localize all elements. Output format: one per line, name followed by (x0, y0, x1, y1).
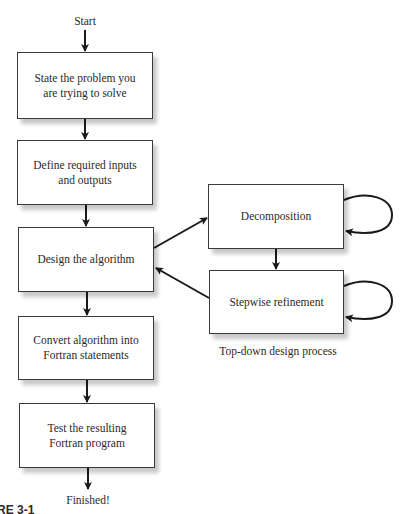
sub-stepwise-refinement-label: Stepwise refinement (229, 295, 323, 310)
step-test-program-line1: Test the resulting (47, 421, 126, 436)
figure-label: RE 3-1 (0, 503, 34, 514)
step-convert-fortran-line1: Convert algorithm into (33, 333, 138, 348)
step-state-problem-line2: are trying to solve (34, 86, 135, 101)
start-label: Start (60, 14, 110, 28)
self-loop-decomposition (344, 196, 392, 233)
step-define-io: Define required inputs and outputs (17, 140, 153, 205)
step-state-problem-line1: State the problem you (34, 71, 135, 86)
sub-decomposition: Decomposition (208, 184, 344, 249)
step-convert-fortran-line2: Fortran statements (33, 348, 138, 363)
flowchart-canvas: Start State the problem you are trying t… (0, 0, 404, 514)
step-state-problem: State the problem you are trying to solv… (17, 52, 153, 119)
step-design-algorithm: Design the algorithm (18, 227, 154, 292)
step-test-program-line2: Fortran program (47, 436, 126, 451)
step-convert-fortran: Convert algorithm into Fortran statement… (18, 316, 154, 380)
sub-stepwise-refinement: Stepwise refinement (209, 270, 344, 334)
arrow-stepwise-to-step3 (156, 268, 209, 298)
subprocess-caption: Top-down design process (218, 344, 338, 358)
step-design-algorithm-line1: Design the algorithm (37, 252, 134, 267)
arrow-step3-to-decomposition (154, 218, 207, 248)
step-test-program: Test the resulting Fortran program (19, 403, 155, 468)
step-define-io-line1: Define required inputs (33, 158, 136, 173)
sub-decomposition-label: Decomposition (241, 209, 311, 224)
end-label: Finished! (58, 493, 118, 507)
step-define-io-line2: and outputs (33, 173, 136, 188)
self-loop-stepwise (344, 282, 392, 319)
